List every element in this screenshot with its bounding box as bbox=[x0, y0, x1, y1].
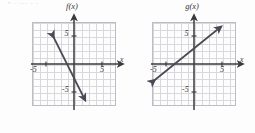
figure-canvas: • - --- - - f(x) bbox=[0, 0, 255, 133]
line-f bbox=[53, 36, 85, 99]
y-tick-top-g: 5 bbox=[185, 30, 189, 38]
graph-panel-f: f(x) bbox=[20, 14, 124, 118]
x-tick-right-f: 5 bbox=[100, 66, 104, 74]
x-tick-right-g: 5 bbox=[220, 66, 224, 74]
x-axis-label-g: x bbox=[240, 56, 243, 64]
y-tick-top-f: 5 bbox=[65, 30, 69, 38]
y-tick-bottom-f: -5 bbox=[62, 86, 69, 94]
function-label-g: g(x) bbox=[162, 1, 222, 11]
x-axis-label-f: x bbox=[120, 56, 123, 64]
function-label-f: f(x) bbox=[42, 1, 102, 11]
x-tick-left-f: -5 bbox=[30, 66, 37, 74]
graph-panel-g: g(x) bbox=[140, 14, 244, 118]
y-tick-bottom-g: -5 bbox=[182, 86, 189, 94]
x-tick-left-g: -5 bbox=[150, 66, 157, 74]
